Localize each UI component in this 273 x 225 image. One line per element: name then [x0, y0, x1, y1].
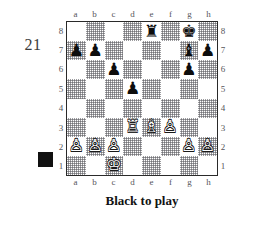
chessboard[interactable]: ♜♚♟♟♝♟♟♟♟♖♗♙♙♙♙♙♙♔ — [66, 21, 218, 176]
piece-black-pawn-g6[interactable]: ♟ — [181, 61, 196, 78]
piece-white-pawn-g2[interactable]: ♙ — [181, 137, 196, 154]
square-b7[interactable]: ♟ — [86, 41, 105, 60]
rank-label-7: 7 — [218, 40, 228, 59]
square-f7[interactable] — [161, 41, 180, 60]
file-label-h: h — [199, 176, 218, 189]
file-label-a: a — [66, 176, 85, 189]
piece-white-bishop-e3[interactable]: ♗ — [144, 118, 159, 135]
square-d7[interactable] — [123, 41, 142, 60]
square-f1[interactable] — [161, 156, 180, 175]
side-to-move-marker — [38, 152, 53, 167]
rank-labels-left: 87654321 — [56, 21, 66, 176]
square-a3[interactable] — [67, 118, 86, 137]
square-e5[interactable] — [142, 79, 161, 98]
square-e7[interactable] — [142, 41, 161, 60]
square-d2[interactable] — [123, 137, 142, 156]
square-b5[interactable] — [86, 79, 105, 98]
rank-label-5: 5 — [218, 79, 228, 98]
square-b6[interactable] — [86, 60, 105, 79]
square-b3[interactable] — [86, 118, 105, 137]
square-c8[interactable] — [105, 22, 124, 41]
square-c6[interactable]: ♟ — [105, 60, 124, 79]
square-f5[interactable] — [161, 79, 180, 98]
square-a8[interactable] — [67, 22, 86, 41]
square-f2[interactable] — [161, 137, 180, 156]
square-g6[interactable]: ♟ — [180, 60, 199, 79]
rank-label-7: 7 — [56, 40, 66, 59]
piece-black-pawn-h7[interactable]: ♟ — [200, 42, 215, 59]
piece-white-pawn-h2[interactable]: ♙ — [200, 137, 215, 154]
square-h8[interactable] — [198, 22, 217, 41]
square-h4[interactable] — [198, 99, 217, 118]
piece-black-rook-e8[interactable]: ♜ — [144, 23, 159, 40]
piece-white-pawn-f3[interactable]: ♙ — [163, 118, 178, 135]
piece-black-king-g8[interactable]: ♚ — [181, 23, 196, 40]
piece-black-pawn-a7[interactable]: ♟ — [69, 42, 84, 59]
rank-label-1: 1 — [218, 157, 228, 176]
square-e4[interactable] — [142, 99, 161, 118]
piece-white-pawn-c2[interactable]: ♙ — [106, 137, 121, 154]
square-f4[interactable] — [161, 99, 180, 118]
square-c4[interactable] — [105, 99, 124, 118]
square-f8[interactable] — [161, 22, 180, 41]
rank-label-4: 4 — [218, 99, 228, 118]
square-d1[interactable] — [123, 156, 142, 175]
file-labels-top: abcdefgh — [66, 8, 218, 21]
square-d5[interactable]: ♟ — [123, 79, 142, 98]
square-a7[interactable]: ♟ — [67, 41, 86, 60]
square-c7[interactable] — [105, 41, 124, 60]
square-g1[interactable] — [180, 156, 199, 175]
square-h1[interactable] — [198, 156, 217, 175]
square-a6[interactable] — [67, 60, 86, 79]
square-f3[interactable]: ♙ — [161, 118, 180, 137]
square-e2[interactable] — [142, 137, 161, 156]
square-d3[interactable]: ♖ — [123, 118, 142, 137]
square-a2[interactable]: ♙ — [67, 137, 86, 156]
piece-white-pawn-a2[interactable]: ♙ — [69, 137, 84, 154]
file-label-e: e — [142, 8, 161, 21]
piece-black-pawn-b7[interactable]: ♟ — [88, 42, 103, 59]
square-g4[interactable] — [180, 99, 199, 118]
rank-label-5: 5 — [56, 79, 66, 98]
square-b8[interactable] — [86, 22, 105, 41]
square-a5[interactable] — [67, 79, 86, 98]
piece-white-king-c1[interactable]: ♔ — [106, 156, 121, 173]
file-label-c: c — [104, 176, 123, 189]
square-h3[interactable] — [198, 118, 217, 137]
square-c2[interactable]: ♙ — [105, 137, 124, 156]
square-g7[interactable]: ♝ — [180, 41, 199, 60]
piece-white-rook-d3[interactable]: ♖ — [125, 118, 140, 135]
square-e3[interactable]: ♗ — [142, 118, 161, 137]
square-b2[interactable]: ♙ — [86, 137, 105, 156]
file-label-g: g — [180, 176, 199, 189]
square-g2[interactable]: ♙ — [180, 137, 199, 156]
square-e1[interactable] — [142, 156, 161, 175]
square-h6[interactable] — [198, 60, 217, 79]
square-c5[interactable] — [105, 79, 124, 98]
square-h5[interactable] — [198, 79, 217, 98]
square-c3[interactable] — [105, 118, 124, 137]
square-b1[interactable] — [86, 156, 105, 175]
square-g3[interactable] — [180, 118, 199, 137]
chess-puzzle-figure: 21 abcdefgh 87654321 ♜♚♟♟♝♟♟♟♟♖♗♙♙♙♙♙♙♔ … — [0, 0, 273, 225]
square-e6[interactable] — [142, 60, 161, 79]
rank-label-6: 6 — [218, 60, 228, 79]
square-e8[interactable]: ♜ — [142, 22, 161, 41]
file-label-b: b — [85, 176, 104, 189]
square-f6[interactable] — [161, 60, 180, 79]
square-g8[interactable]: ♚ — [180, 22, 199, 41]
piece-white-pawn-b2[interactable]: ♙ — [88, 137, 103, 154]
square-a1[interactable] — [67, 156, 86, 175]
square-a4[interactable] — [67, 99, 86, 118]
square-c1[interactable]: ♔ — [105, 156, 124, 175]
square-g5[interactable] — [180, 79, 199, 98]
square-h7[interactable]: ♟ — [198, 41, 217, 60]
piece-black-pawn-d5[interactable]: ♟ — [125, 80, 140, 97]
square-h2[interactable]: ♙ — [198, 137, 217, 156]
square-d4[interactable] — [123, 99, 142, 118]
square-d8[interactable] — [123, 22, 142, 41]
square-b4[interactable] — [86, 99, 105, 118]
square-d6[interactable] — [123, 60, 142, 79]
piece-black-pawn-c6[interactable]: ♟ — [106, 61, 121, 78]
piece-black-bishop-g7[interactable]: ♝ — [181, 42, 196, 59]
